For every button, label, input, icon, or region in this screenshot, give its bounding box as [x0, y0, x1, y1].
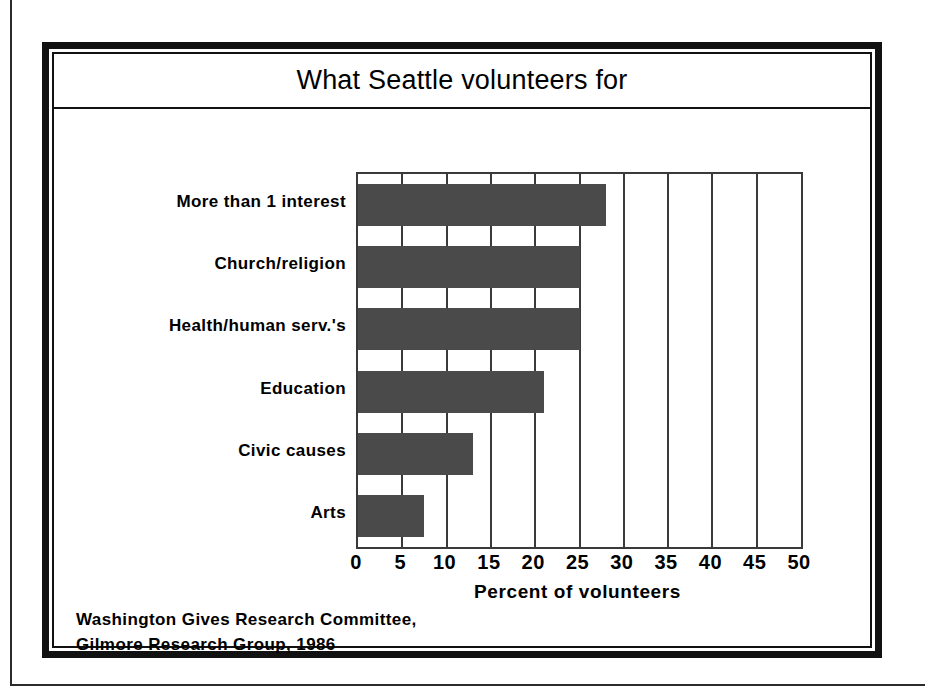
chart-outer-frame: What Seattle volunteers for More than 1 … [42, 42, 882, 658]
source-note: Washington Gives Research Committee, Gil… [76, 607, 417, 657]
bar-row [358, 184, 606, 226]
category-label: More than 1 interest [86, 192, 346, 212]
x-tick-label: 30 [602, 551, 642, 574]
bar [358, 495, 424, 537]
x-axis-tick-labels: 05101520253035404550 [356, 551, 799, 577]
chart-title: What Seattle volunteers for [54, 54, 870, 107]
gridline [490, 174, 492, 547]
category-label: Church/religion [86, 254, 346, 274]
source-note-line-2: Gilmore Research Group, 1986 [76, 632, 417, 657]
bar [358, 433, 473, 475]
bar [358, 371, 544, 413]
gridline [623, 174, 625, 547]
source-note-line-1: Washington Gives Research Committee, [76, 607, 417, 632]
x-tick-label: 5 [380, 551, 420, 574]
category-axis-labels: More than 1 interestChurch/religionHealt… [76, 172, 346, 545]
bar-row [358, 308, 580, 350]
x-axis-title: Percent of volunteers [356, 581, 799, 603]
gridline [579, 174, 581, 547]
page-rule-left [10, 0, 12, 686]
category-label: Education [86, 379, 346, 399]
bar-row [358, 371, 544, 413]
x-tick-label: 15 [469, 551, 509, 574]
x-tick-label: 10 [425, 551, 465, 574]
chart-inner-frame: What Seattle volunteers for More than 1 … [52, 52, 872, 648]
title-divider [54, 107, 870, 109]
x-tick-label: 45 [735, 551, 775, 574]
category-label: Arts [86, 503, 346, 523]
gridline [534, 174, 536, 547]
page-rule-bottom [10, 684, 925, 686]
bar-row [358, 433, 473, 475]
gridline [446, 174, 448, 547]
bar-row [358, 495, 424, 537]
x-tick-label: 50 [779, 551, 819, 574]
gridline [401, 174, 403, 547]
x-tick-label: 20 [513, 551, 553, 574]
plot-area [356, 172, 803, 549]
category-label: Civic causes [86, 441, 346, 461]
bar [358, 184, 606, 226]
x-tick-label: 40 [690, 551, 730, 574]
bar-row [358, 246, 580, 288]
bar [358, 308, 580, 350]
x-tick-label: 25 [558, 551, 598, 574]
gridline [756, 174, 758, 547]
bar [358, 246, 580, 288]
x-tick-label: 0 [336, 551, 376, 574]
x-tick-label: 35 [646, 551, 686, 574]
category-label: Health/human serv.'s [86, 316, 346, 336]
gridline [711, 174, 713, 547]
gridline [667, 174, 669, 547]
